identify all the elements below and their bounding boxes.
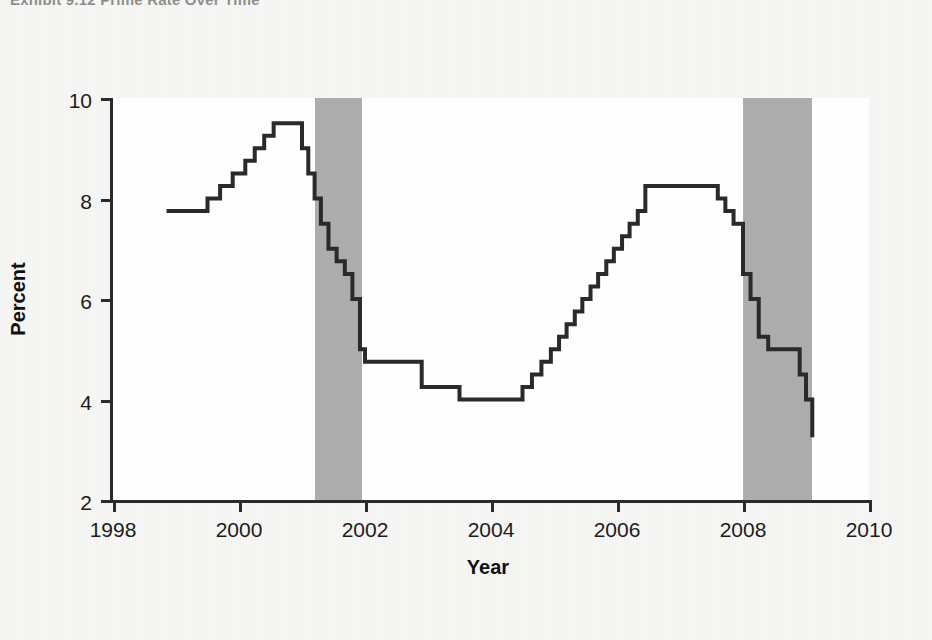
y-axis-tick-label: 2	[80, 491, 92, 515]
y-axis-tick-label: 10	[69, 89, 92, 113]
y-axis-tick: 6	[101, 299, 113, 302]
y-axis-tick-label: 6	[80, 290, 92, 314]
x-axis-tick	[491, 500, 494, 512]
x-axis-tick	[113, 500, 116, 512]
y-axis-tick: 2	[101, 500, 113, 503]
prime-rate-chart: Percent Year 246810 19982000200220042006…	[0, 0, 932, 640]
x-axis-tick-label: 2006	[594, 518, 641, 542]
y-axis-title: Percent	[7, 262, 30, 335]
y-axis-tick: 8	[101, 199, 113, 202]
y-axis-tick: 10	[101, 98, 113, 101]
x-axis-tick	[869, 500, 872, 512]
x-axis-tick	[617, 500, 620, 512]
x-axis-tick-label: 2008	[720, 518, 767, 542]
x-axis-tick-label: 1998	[90, 518, 137, 542]
x-axis-tick	[365, 500, 368, 512]
x-axis-tick-label: 2004	[468, 518, 515, 542]
x-axis-tick	[239, 500, 242, 512]
y-axis-tick-label: 8	[80, 190, 92, 214]
x-axis-title: Year	[467, 556, 509, 579]
series-line	[167, 123, 813, 437]
y-axis-tick-label: 4	[80, 391, 92, 415]
x-axis-tick-label: 2000	[216, 518, 263, 542]
plot-area: 246810 1998200020022004200620082010	[110, 98, 869, 503]
x-axis-tick-label: 2010	[846, 518, 893, 542]
prime-rate-series	[113, 98, 869, 500]
y-axis-tick: 4	[101, 400, 113, 403]
x-axis-tick-label: 2002	[342, 518, 389, 542]
x-axis-tick	[743, 500, 746, 512]
